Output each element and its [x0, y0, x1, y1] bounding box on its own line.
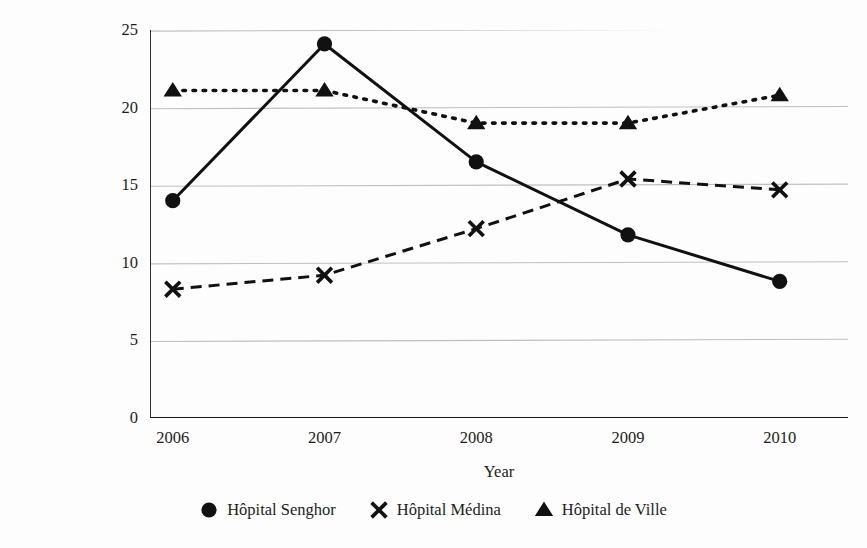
data-point: [469, 221, 484, 236]
series-1: [165, 36, 787, 289]
data-point: [164, 82, 182, 97]
x-marker-icon: [370, 501, 388, 519]
legend-item: Hôpital de Ville: [535, 500, 667, 520]
data-point: [620, 227, 635, 242]
data-point: [165, 193, 180, 208]
x-tick-label: 2007: [285, 428, 365, 448]
chart-legend: Hôpital SenghorHôpital MédinaHôpital de …: [0, 500, 867, 520]
data-point: [772, 274, 787, 289]
y-tick-label: 0: [94, 410, 138, 427]
triangle-marker-icon: [535, 501, 553, 519]
legend-label: Hôpital Médina: [397, 500, 501, 520]
y-tick-label: 10: [94, 255, 138, 272]
gridline: [150, 107, 848, 109]
x-tick-label: 2006: [133, 428, 213, 448]
x-tick-label: 2009: [588, 428, 668, 448]
data-point: [469, 154, 484, 169]
x-tick-label: 2008: [436, 428, 516, 448]
plot-svg: [150, 30, 848, 418]
legend-item: Hôpital Médina: [370, 500, 501, 520]
series-3: [164, 82, 789, 129]
circle-marker-icon: [200, 501, 218, 519]
y-tick-label: 5: [94, 332, 138, 349]
legend-label: Hôpital de Ville: [562, 500, 667, 520]
legend-item: Hôpital Senghor: [200, 500, 336, 520]
gridline: [150, 262, 848, 264]
plot-area: [150, 30, 848, 418]
series-line: [173, 179, 780, 289]
data-point: [317, 36, 332, 51]
gridline: [150, 30, 848, 31]
x-tick-label: 2010: [740, 428, 820, 448]
legend-label: Hôpital Senghor: [227, 500, 336, 520]
y-tick-label: 15: [94, 177, 138, 194]
y-tick-label: 25: [94, 22, 138, 39]
x-axis-title: Year: [150, 462, 848, 482]
series-2: [165, 172, 787, 297]
data-point: [771, 87, 789, 102]
y-tick-label: 20: [94, 100, 138, 117]
gridline: [150, 339, 848, 341]
chart-figure: Percentage of admissions (%) 0510152025 …: [0, 0, 867, 548]
